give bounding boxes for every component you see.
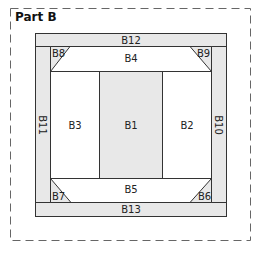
- label-b6: B6: [198, 191, 211, 202]
- label-b2: B2: [180, 120, 193, 131]
- label-b1: B1: [124, 120, 137, 131]
- label-b9: B9: [197, 48, 210, 59]
- label-b5: B5: [124, 184, 137, 195]
- label-b7: B7: [52, 191, 65, 202]
- label-b3: B3: [68, 120, 81, 131]
- part-title: Part B: [15, 10, 57, 24]
- label-b13: B13: [121, 204, 141, 215]
- label-b10: B10: [213, 115, 224, 135]
- label-b8: B8: [52, 48, 65, 59]
- label-b11: B11: [37, 115, 48, 135]
- label-b12: B12: [121, 35, 141, 46]
- label-b4: B4: [124, 53, 137, 64]
- quilt-block-diagram: B12 B4 B8 B9 B3 B1 B2 B5 B7 B6 B13 B11 B…: [0, 0, 260, 253]
